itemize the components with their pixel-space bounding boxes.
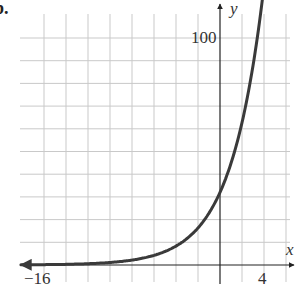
curve <box>21 0 270 265</box>
grid-lines <box>20 14 290 282</box>
x-axis-label: x <box>285 240 294 259</box>
x-tick-label: 4 <box>258 269 267 288</box>
y-axis-label: y <box>228 0 238 18</box>
y-tick-label: 100 <box>191 28 217 47</box>
x-tick-label: −16 <box>24 269 51 288</box>
tick-labels: −164100xy <box>24 0 294 288</box>
exponential-curve <box>21 0 270 265</box>
exponential-chart: −164100xy <box>0 0 296 296</box>
